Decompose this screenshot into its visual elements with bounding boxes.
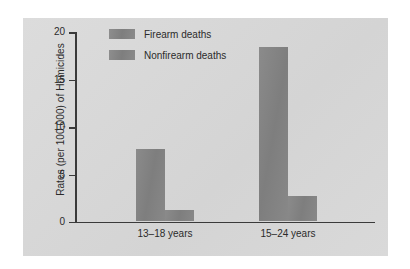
y-tick-label-5: 5 <box>31 170 65 180</box>
bar-nonfirearm-13-18 <box>165 210 194 221</box>
y-tick-label-0: 0 <box>31 217 65 227</box>
figure-container: Rates (per 100,000) of Homicides 20 15 1… <box>0 0 410 269</box>
y-tick-5 <box>69 175 75 177</box>
y-tick-label-15: 15 <box>31 75 65 85</box>
legend-label-firearm: Firearm deaths <box>144 29 211 40</box>
bar-firearm-13-18 <box>136 149 165 221</box>
x-axis-line <box>75 222 375 224</box>
legend: Firearm deaths Nonfirearm deaths <box>109 26 226 68</box>
y-tick-0 <box>69 222 75 224</box>
x-category-label-13-18: 13–18 years <box>105 228 225 239</box>
x-category-label-15-24: 15–24 years <box>228 228 348 239</box>
y-tick-label-10: 10 <box>31 122 65 132</box>
legend-swatch-icon-firearm <box>109 29 135 39</box>
bar-firearm-15-24 <box>259 47 288 222</box>
legend-item-firearm: Firearm deaths <box>109 26 226 42</box>
legend-label-nonfirearm: Nonfirearm deaths <box>144 50 226 61</box>
y-tick-15 <box>69 80 75 82</box>
y-tick-10 <box>69 127 75 129</box>
legend-item-nonfirearm: Nonfirearm deaths <box>109 47 226 63</box>
legend-swatch-icon-nonfirearm <box>109 50 135 60</box>
y-tick-label-20: 20 <box>31 27 65 37</box>
plot-panel: Rates (per 100,000) of Homicides 20 15 1… <box>23 18 388 256</box>
y-axis-line <box>75 32 77 222</box>
y-tick-20 <box>69 32 75 34</box>
y-axis-label: Rates (per 100,000) of Homicides <box>55 15 66 225</box>
bar-nonfirearm-15-24 <box>288 196 317 222</box>
